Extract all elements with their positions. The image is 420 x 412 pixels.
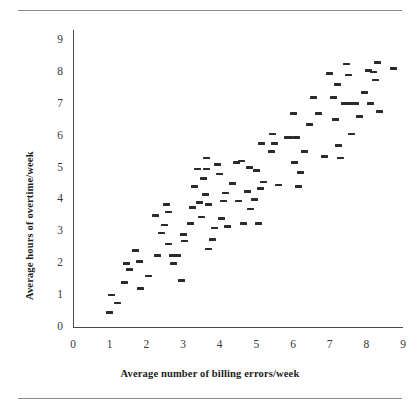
data-point-marker [348,133,355,136]
data-point-marker [106,311,113,314]
data-point-marker [137,287,144,290]
y-tick-label: 0 [45,321,63,333]
data-point-marker [301,150,308,153]
y-tick-label: 9 [45,34,63,46]
x-tick-label: 8 [357,339,375,351]
data-point-marker [123,262,130,265]
data-point-marker [370,71,377,74]
y-tick-label: 1 [45,289,63,301]
data-point-marker [114,302,121,305]
data-point-marker [224,225,231,228]
data-point-marker [244,190,251,193]
data-point-marker [170,262,177,265]
scatter-plot-figure: 0123456789 0123456789 Average number of … [0,0,420,412]
x-tick-label: 1 [101,339,119,351]
data-point-marker [293,136,300,139]
data-point-marker [205,248,212,251]
data-point-marker [345,74,352,77]
data-point-marker [335,144,342,147]
y-tick-label: 7 [45,98,63,110]
x-tick-label: 7 [321,339,339,351]
data-point-marker [286,136,293,139]
data-point-marker [271,142,278,145]
data-point-marker [132,249,139,252]
data-point-marker [187,222,194,225]
data-point-marker [367,102,374,105]
data-point-marker [251,198,258,201]
data-point-marker [216,173,223,176]
data-point-marker [315,112,322,115]
x-tick-label: 2 [137,339,155,351]
data-point-marker [198,216,205,219]
data-point-marker [258,142,265,145]
data-point-marker [291,161,298,164]
data-point-marker [374,61,381,64]
data-point-marker [222,192,229,195]
data-point-marker [240,222,247,225]
data-point-marker [181,240,188,243]
data-point-marker [260,181,267,184]
data-point-marker [235,200,242,203]
data-point-marker [165,243,172,246]
y-tick-label: 4 [45,193,63,205]
data-point-marker [255,222,262,225]
y-tick-label: 3 [45,225,63,237]
data-point-marker [189,206,196,209]
data-point-marker [247,208,254,211]
y-tick-label: 2 [45,257,63,269]
data-point-marker [202,193,209,196]
x-axis-title: Average number of billing errors/week [0,368,420,379]
data-point-marker [178,279,185,282]
data-point-marker [174,254,181,257]
y-axis-title: Average hours of overtime/week [24,151,35,300]
data-point-marker [372,79,379,82]
data-point-marker [326,72,333,75]
data-point-marker [196,201,203,204]
data-point-marker [152,214,159,217]
data-point-marker [352,102,359,105]
x-tick-label: 4 [211,339,229,351]
data-point-marker [145,275,152,278]
data-point-marker [390,67,397,70]
y-tick-label: 8 [45,66,63,78]
y-tick-label: 5 [45,162,63,174]
top-horizontal-rule [18,10,402,11]
data-point-marker [361,91,368,94]
data-point-marker [191,185,198,188]
data-point-marker [343,63,350,66]
data-point-marker [209,238,216,241]
data-point-marker [205,203,212,206]
data-point-marker [200,177,207,180]
x-tick-label: 9 [394,339,412,351]
data-point-marker [246,166,253,169]
data-point-marker [108,294,115,297]
data-point-marker [163,203,170,206]
data-point-marker [214,163,221,166]
data-point-marker [269,133,276,136]
data-point-marker [180,233,187,236]
data-point-marker [158,232,165,235]
data-point-marker [257,187,264,190]
data-point-marker [220,200,227,203]
data-point-marker [203,157,210,160]
data-point-marker [218,217,225,220]
data-point-marker [337,157,344,160]
data-point-marker [330,96,337,99]
x-axis-line [73,327,403,328]
data-point-marker [297,171,304,174]
data-point-marker [295,185,302,188]
data-point-marker [136,260,143,263]
bottom-horizontal-rule [18,398,402,399]
data-point-marker [356,115,363,118]
y-tick-label: 6 [45,130,63,142]
data-point-marker [253,169,260,172]
data-point-marker [121,281,128,284]
data-point-marker [126,268,133,271]
x-tick-label: 5 [247,339,265,351]
x-tick-label: 3 [174,339,192,351]
data-point-marker [229,182,236,185]
data-point-marker [290,112,297,115]
data-point-marker [275,184,282,187]
data-point-marker [332,118,339,121]
data-point-marker [306,123,313,126]
